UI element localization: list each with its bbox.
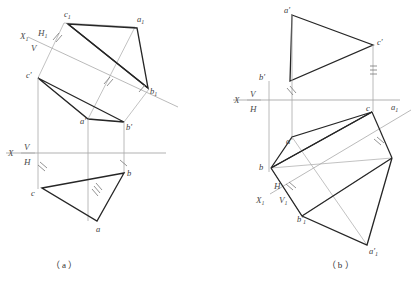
label-v-b: V: [250, 89, 257, 99]
label-b-prime-a: b′: [126, 122, 132, 132]
aux-edge-c-b: [372, 112, 392, 158]
label-c-prime-b: c′: [377, 37, 383, 47]
label-b-b: b: [259, 162, 263, 172]
triangle-aux-b: [271, 158, 392, 245]
label-a1-prime-b: a′1: [369, 246, 378, 257]
label-a-b: a: [286, 136, 290, 146]
label-x-axis-a: X: [7, 148, 14, 158]
triangle-aux-diagonal-a: [68, 24, 148, 88]
caption-a: （ a ）: [51, 260, 78, 270]
label-b1-a: b1: [150, 86, 157, 97]
caption-b: （ b ）: [327, 260, 354, 270]
diagram-b-group: a′ b′ c′ X V H a b c a1 H X1 V1 b′1 a′1 …: [233, 5, 411, 270]
label-h-a: H: [23, 157, 31, 167]
label-c-a: c: [31, 188, 35, 198]
label-a1-a: a1: [137, 14, 144, 25]
label-v1-b: V1: [279, 195, 288, 206]
label-b-a: b: [127, 168, 131, 178]
label-c-b: c: [366, 103, 370, 113]
aux-ray-a-a: [88, 27, 135, 119]
label-a-prime-b: a′: [284, 5, 290, 15]
label-h-aux-b: H: [273, 181, 281, 191]
label-x1-b: X1: [255, 195, 265, 206]
label-a1-b: a1: [391, 102, 398, 113]
label-v-a: V: [24, 142, 31, 152]
label-x1-a: X1: [19, 31, 29, 42]
label-h-b: H: [249, 104, 257, 114]
label-v-aux-a: V: [31, 43, 38, 53]
diagram-a-group: X1 H1 V c1 a1 b1 c′ a′ b′ X V H c a b （ …: [6, 9, 178, 270]
technical-drawing-canvas: X1 H1 V c1 a1 b1 c′ a′ b′ X V H c a b （ …: [0, 0, 411, 281]
tick-marks-b: [286, 66, 384, 190]
aux-ray-b-a: [124, 89, 149, 122]
figure-root: X1 H1 V c1 a1 b1 c′ a′ b′ X V H c a b （ …: [0, 0, 411, 281]
label-a-a: a: [96, 224, 100, 234]
label-x-axis-b: X: [233, 95, 240, 105]
label-c1-a: c1: [64, 9, 71, 20]
label-b1-prime-b: b′1: [297, 214, 306, 225]
label-a-prime-a: a′: [80, 116, 86, 126]
label-h1-a: H1: [37, 28, 48, 39]
triangle-horizontal-a: [42, 173, 124, 221]
label-b-prime-b: b′: [259, 72, 265, 82]
triangle-frontal-b: [290, 15, 373, 81]
label-c-prime-a: c′: [26, 70, 32, 80]
